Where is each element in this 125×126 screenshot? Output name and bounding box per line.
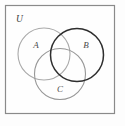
venn-diagram-figure: U A B C (0, 0, 125, 126)
set-label-b: B (83, 40, 89, 50)
set-label-c: C (57, 84, 64, 94)
venn-diagram-canvas: U A B C (0, 0, 125, 126)
set-label-a: A (32, 40, 39, 50)
universal-set-label: U (16, 14, 24, 24)
